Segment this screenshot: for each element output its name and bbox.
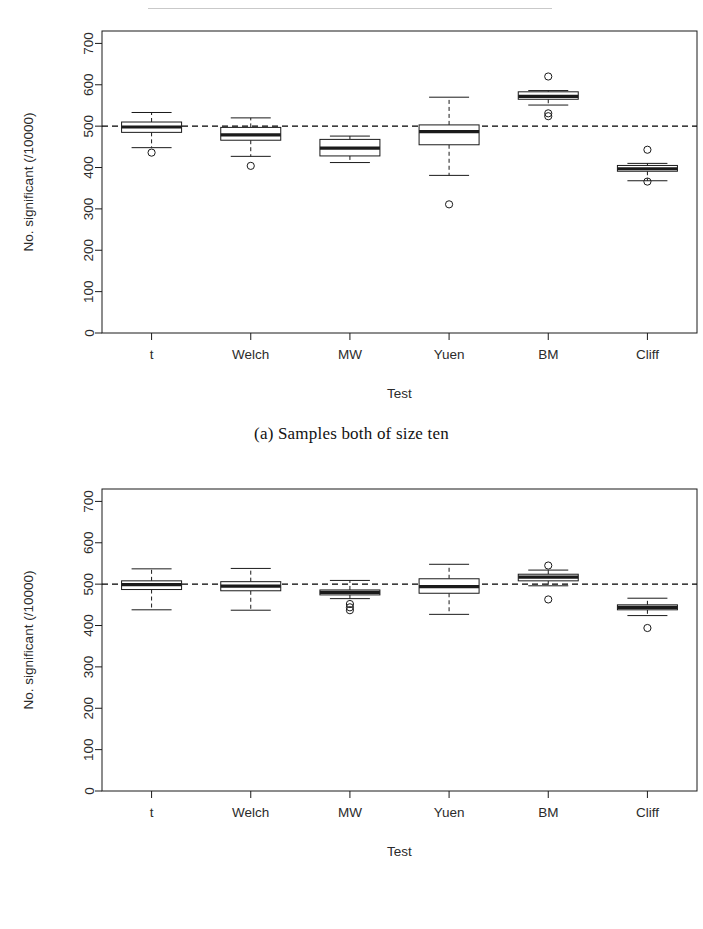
boxplot-t bbox=[122, 112, 182, 156]
boxplot-Cliff bbox=[617, 146, 677, 185]
box-iqr bbox=[419, 125, 479, 145]
y-axis-tick-label: 100 bbox=[82, 280, 97, 303]
outlier-point bbox=[247, 162, 254, 169]
x-axis-tick-label: t bbox=[150, 347, 154, 362]
y-axis-tick-label: 0 bbox=[82, 329, 97, 337]
boxplot-Welch bbox=[221, 568, 281, 610]
y-axis-tick-label: 0 bbox=[82, 787, 97, 795]
y-axis-tick-label: 300 bbox=[82, 656, 97, 679]
panel-a-caption: (a) Samples both of size ten bbox=[0, 424, 703, 444]
x-axis-tick-label: Yuen bbox=[434, 347, 465, 362]
plot-frame bbox=[102, 489, 697, 791]
y-axis-title: No. significant (/10000) bbox=[21, 571, 36, 710]
plot-frame bbox=[102, 31, 697, 333]
y-axis-tick-label: 300 bbox=[82, 198, 97, 221]
x-axis-tick-label: Yuen bbox=[434, 805, 465, 820]
y-axis-tick-label: 400 bbox=[82, 156, 97, 179]
x-axis-tick-label: BM bbox=[538, 347, 558, 362]
x-axis-tick-label: MW bbox=[338, 347, 362, 362]
boxplot-chart-b: 0100200300400500600700No. significant (/… bbox=[0, 458, 703, 878]
y-axis-tick-label: 600 bbox=[82, 74, 97, 97]
boxplot-Welch bbox=[221, 118, 281, 170]
x-axis-tick-label: BM bbox=[538, 805, 558, 820]
outlier-point bbox=[545, 562, 552, 569]
boxplot-chart-a: 0100200300400500600700No. significant (/… bbox=[0, 0, 703, 420]
x-axis-title: Test bbox=[387, 386, 412, 401]
y-axis-tick-label: 700 bbox=[82, 490, 97, 513]
y-axis-tick-label: 500 bbox=[82, 115, 97, 138]
y-axis-tick-label: 100 bbox=[82, 738, 97, 761]
y-axis-tick-label: 200 bbox=[82, 239, 97, 262]
outlier-point bbox=[545, 73, 552, 80]
boxplot-t bbox=[122, 569, 182, 610]
boxplot-Yuen bbox=[419, 564, 479, 614]
x-axis-tick-label: Cliff bbox=[636, 347, 659, 362]
y-axis-tick-label: 700 bbox=[82, 32, 97, 55]
x-axis-tick-label: Welch bbox=[232, 805, 269, 820]
outlier-point bbox=[545, 596, 552, 603]
y-axis-tick-label: 500 bbox=[82, 573, 97, 596]
y-axis-title: No. significant (/10000) bbox=[21, 113, 36, 252]
outlier-point bbox=[644, 146, 651, 153]
outlier-point bbox=[148, 149, 155, 156]
x-axis-tick-label: t bbox=[150, 805, 154, 820]
panel-b: 0100200300400500600700No. significant (/… bbox=[0, 458, 703, 920]
x-axis-title: Test bbox=[387, 844, 412, 859]
outlier-point bbox=[644, 624, 651, 631]
outlier-point bbox=[445, 201, 452, 208]
boxplot-MW bbox=[320, 580, 380, 613]
boxplot-Yuen bbox=[419, 97, 479, 208]
figure-page: 0100200300400500600700No. significant (/… bbox=[0, 0, 703, 929]
y-axis-tick-label: 600 bbox=[82, 532, 97, 555]
boxplot-BM bbox=[518, 73, 578, 120]
x-axis-tick-label: Welch bbox=[232, 347, 269, 362]
boxplot-BM bbox=[518, 562, 578, 603]
boxplot-Cliff bbox=[617, 598, 677, 631]
y-axis-tick-label: 400 bbox=[82, 614, 97, 637]
y-axis-tick-label: 200 bbox=[82, 697, 97, 720]
boxplot-MW bbox=[320, 136, 380, 162]
x-axis-tick-label: Cliff bbox=[636, 805, 659, 820]
panel-a: 0100200300400500600700No. significant (/… bbox=[0, 0, 703, 448]
x-axis-tick-label: MW bbox=[338, 805, 362, 820]
